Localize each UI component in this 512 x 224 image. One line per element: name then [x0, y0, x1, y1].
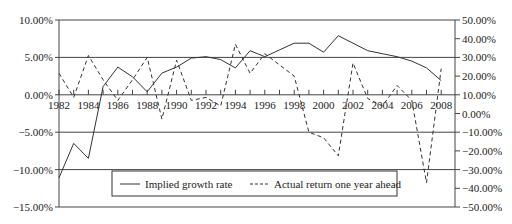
x-tick-label: 1996	[254, 99, 277, 111]
right-tick-label: −30.00%	[462, 164, 502, 176]
right-tick-label: −50.00%	[462, 201, 502, 213]
x-axis: 1982198419861988199019921994199619982000…	[48, 90, 453, 111]
left-tick-label: 5.00%	[25, 51, 53, 63]
legend-label-actual: Actual return one year ahead	[274, 178, 402, 190]
x-tick-label: 1992	[195, 99, 217, 111]
legend-label-implied: Implied growth rate	[145, 178, 232, 190]
right-tick-label: 0.00%	[462, 108, 490, 120]
right-tick-label: 30.00%	[462, 51, 496, 63]
right-tick-label: −20.00%	[462, 145, 502, 157]
left-y-axis: 10.00%5.00%0.00%−5.00%−10.00%−15.00%	[13, 14, 59, 213]
right-tick-label: 50.00%	[462, 14, 496, 26]
x-tick-label: 1994	[224, 99, 247, 111]
right-y-axis: 50.00%40.00%30.00%20.00%10.00%0.00%−10.0…	[455, 14, 502, 213]
series-actual-return	[59, 44, 441, 182]
x-tick-label: 1988	[136, 99, 159, 111]
x-tick-label: 1990	[166, 99, 189, 111]
right-tick-label: −10.00%	[462, 126, 502, 138]
x-tick-label: 2008	[430, 99, 453, 111]
left-tick-label: −5.00%	[18, 126, 53, 138]
right-tick-label: 20.00%	[462, 70, 496, 82]
left-tick-label: −15.00%	[13, 201, 53, 213]
right-tick-label: −40.00%	[462, 182, 502, 194]
x-tick-label: 2004	[371, 99, 394, 111]
chart: 10.00%5.00%0.00%−5.00%−10.00%−15.00% 50.…	[0, 0, 512, 224]
left-tick-label: 10.00%	[19, 14, 53, 26]
right-tick-label: 40.00%	[462, 33, 496, 45]
x-tick-label: 2000	[313, 99, 336, 111]
x-tick-label: 1984	[77, 99, 100, 111]
left-tick-label: −10.00%	[13, 164, 53, 176]
right-tick-label: 10.00%	[462, 89, 496, 101]
legend: Implied growth rate Actual return one ye…	[112, 171, 402, 196]
x-tick-label: 1982	[48, 99, 70, 111]
